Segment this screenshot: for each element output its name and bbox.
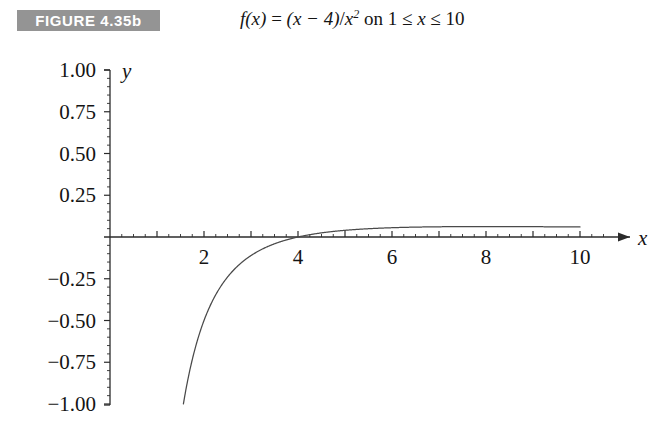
figure-container: FIGURE 4.35b f(x) = (x − 4)/x2 on 1 ≤ x …	[0, 0, 664, 443]
caption-denominator: x	[345, 8, 353, 29]
figure-number-label: FIGURE 4.35b	[35, 12, 141, 29]
y-tick-label: −1.00	[47, 392, 96, 416]
caption-equals: =	[271, 8, 282, 29]
function-curve	[183, 227, 580, 404]
y-axis-tick-labels: 1.000.750.500.25−0.25−0.50−0.75−1.00	[47, 58, 96, 416]
caption-numerator: (x − 4)	[287, 8, 340, 29]
caption-domain-high: 10	[446, 8, 465, 29]
x-axis-tick-labels: 246810	[199, 245, 591, 269]
caption-le-second: ≤	[430, 8, 440, 29]
figure-number-banner: FIGURE 4.35b	[17, 10, 160, 31]
x-tick-label: 2	[199, 245, 210, 269]
plot-svg: 1.000.750.500.25−0.25−0.50−0.75−1.00 246…	[0, 46, 664, 443]
y-tick-label: −0.25	[47, 267, 96, 291]
x-tick-label: 6	[387, 245, 398, 269]
x-axis-arrow-head	[618, 233, 630, 242]
figure-caption: f(x) = (x − 4)/x2 on 1 ≤ x ≤ 10	[240, 7, 465, 30]
caption-le-first: ≤	[402, 8, 412, 29]
y-tick-label: −0.75	[47, 350, 96, 374]
caption-domain-var: x	[417, 8, 425, 29]
x-axis-label: x	[637, 226, 648, 250]
caption-on-word: on	[364, 8, 383, 29]
y-tick-label: −0.50	[47, 309, 96, 333]
y-tick-label: 0.25	[59, 183, 96, 207]
caption-exponent: 2	[353, 7, 359, 21]
x-tick-label: 10	[570, 245, 591, 269]
figure-header: FIGURE 4.35b f(x) = (x − 4)/x2 on 1 ≤ x …	[0, 0, 664, 46]
x-tick-label: 4	[293, 245, 304, 269]
y-axis-label: y	[120, 59, 132, 83]
caption-function-arg: (x)	[245, 8, 266, 29]
y-tick-label: 0.75	[59, 100, 96, 124]
plot-area: 1.000.750.500.25−0.25−0.50−0.75−1.00 246…	[0, 46, 664, 443]
x-tick-label: 8	[481, 245, 492, 269]
y-tick-label: 1.00	[59, 58, 96, 82]
y-tick-label: 0.50	[59, 142, 96, 166]
caption-domain-low: 1	[388, 8, 398, 29]
